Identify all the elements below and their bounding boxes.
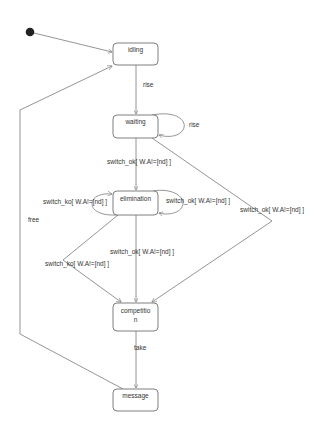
state-diagram: rise rise switch_ok[ W.A!=[nd] ] switch_… — [0, 0, 317, 440]
edge-elimination-to-competition-ko — [63, 215, 121, 302]
label-switch-ok-waiting-elimination: switch_ok[ W.A!=[nd] ] — [107, 158, 171, 166]
initial-state-dot — [26, 28, 35, 37]
state-message[interactable]: message — [113, 389, 158, 411]
label-rise-idling-waiting: rise — [143, 81, 154, 88]
label-switch-ok-elimination-competition: switch_ok[ W.A!=[nd] ] — [110, 248, 174, 256]
label-switch-ko-elimination-competition: switch_ko[ W.A!=[nd] ] — [45, 260, 109, 268]
state-competition[interactable]: competitio n — [113, 303, 158, 331]
label-switch-ok-elimination-loop: switch_ok[ W.A!=[nd] ] — [166, 197, 230, 205]
label-switch-ko-elimination-loop: switch_ko[ W.A!=[nd] ] — [43, 198, 107, 206]
state-idling-label: idling — [128, 46, 144, 54]
state-elimination-label: elimination — [120, 195, 151, 202]
edge-initial-to-idling — [34, 33, 112, 52]
state-idling[interactable]: idling — [113, 43, 158, 65]
label-take: take — [134, 344, 147, 351]
label-free: free — [28, 216, 40, 223]
state-message-label: message — [122, 392, 149, 400]
state-competition-label-line1: competitio — [121, 307, 151, 315]
state-competition-label-line2: n — [134, 316, 138, 323]
state-waiting[interactable]: waiting — [113, 115, 158, 138]
state-waiting-label: waiting — [124, 118, 146, 126]
label-switch-ok-waiting-competition: switch_ok[ W.A!=[nd] ] — [240, 206, 304, 214]
state-elimination[interactable]: elimination — [113, 191, 158, 215]
label-rise-waiting-loop: rise — [189, 121, 200, 128]
edge-message-to-idling — [20, 66, 123, 389]
